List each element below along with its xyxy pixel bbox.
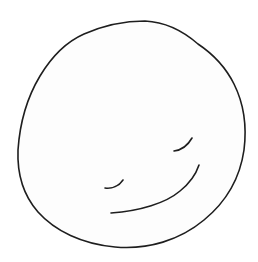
smiley-face-icon (0, 0, 258, 262)
smiley-drawing: Hand-drawn smiley face (0, 0, 258, 262)
